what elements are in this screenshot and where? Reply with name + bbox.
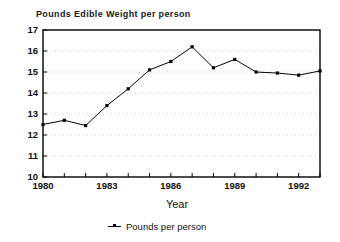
x-tick-label: 1980 xyxy=(23,180,63,191)
legend-marker-icon xyxy=(108,222,121,231)
plot-frame xyxy=(43,30,320,177)
y-tick-label: 13 xyxy=(18,108,38,119)
x-tick-label: 1986 xyxy=(151,180,191,191)
y-tick-label: 15 xyxy=(18,66,38,77)
x-tick-label: 1989 xyxy=(215,180,255,191)
x-tick-label: 1983 xyxy=(87,180,127,191)
y-tick-label: 16 xyxy=(18,45,38,56)
gridlines xyxy=(43,30,320,156)
chart-figure: Pounds Edible Weight per person 10111213… xyxy=(0,0,340,242)
chart-legend: Pounds per person xyxy=(108,221,206,232)
data-series-pounds-per-person xyxy=(41,45,321,127)
y-tick-label: 14 xyxy=(18,87,38,98)
legend-label: Pounds per person xyxy=(126,221,206,232)
x-tick-label: 1992 xyxy=(279,180,319,191)
x-axis-label: Year xyxy=(142,198,212,210)
y-tick-label: 12 xyxy=(18,129,38,140)
y-tick-label: 11 xyxy=(18,150,38,161)
y-tick-label: 17 xyxy=(18,24,38,35)
